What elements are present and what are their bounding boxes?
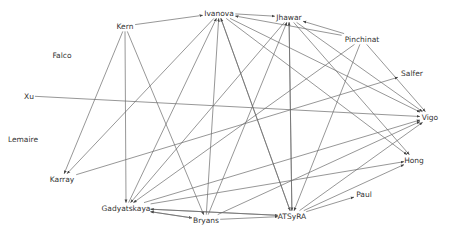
- edge-layer: [35, 14, 425, 219]
- node-salfer: Salfer: [401, 69, 424, 78]
- edge-jhawar-to-gadyatskaya: [131, 22, 285, 202]
- network-graph: IvanovaKernJhawarPinchinatSalferFalcoXuV…: [0, 0, 453, 234]
- node-paul: Paul: [356, 190, 372, 199]
- node-atsyra: ATSyRA: [278, 212, 307, 221]
- edge-ivanova-to-hong: [226, 18, 407, 154]
- edge-kern-to-gadyatskaya: [125, 31, 126, 202]
- node-lemaire: Lemaire: [8, 135, 39, 144]
- node-gadyatskaya: Gadyatskaya: [102, 204, 151, 213]
- edge-bryans-to-atsyra: [220, 217, 278, 220]
- edge-kern-to-karray: [64, 31, 123, 173]
- edge-gadyatskaya-to-vigo: [144, 120, 420, 203]
- edge-xu-to-vigo: [35, 96, 420, 116]
- edge-kern-to-ivanova: [135, 15, 203, 24]
- node-karray: Karray: [50, 175, 75, 184]
- node-hong: Hong: [404, 156, 424, 165]
- edge-atsyra-to-paul: [306, 197, 354, 212]
- edge-kern-to-bryans: [127, 31, 203, 214]
- edge-bryans-to-jhawar: [208, 22, 287, 214]
- node-vigo: Vigo: [422, 113, 439, 122]
- edge-bryans-to-vigo: [218, 122, 420, 215]
- edge-bryans-to-ivanova: [206, 18, 218, 214]
- node-bryans: Bryans: [193, 216, 219, 225]
- edge-ivanova-to-jhawar: [235, 14, 274, 16]
- node-pinchinat: Pinchinat: [345, 35, 380, 44]
- edge-bryans-to-gadyatskaya: [151, 212, 192, 218]
- edge-pinchinat-to-atsyra: [294, 44, 360, 210]
- edge-atsyra-to-ivanova: [221, 18, 290, 210]
- node-kern: Kern: [117, 22, 134, 31]
- node-xu: Xu: [24, 92, 34, 101]
- edge-atsyra-to-jhawar: [289, 22, 292, 210]
- node-ivanova: Ivanova: [204, 9, 234, 18]
- edge-ivanova-to-karray: [67, 18, 214, 173]
- edge-karray-to-salfer: [76, 77, 398, 174]
- node-jhawar: Jhawar: [275, 13, 302, 22]
- node-falco: Falco: [52, 51, 71, 60]
